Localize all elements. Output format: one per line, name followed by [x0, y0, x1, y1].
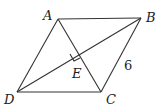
side-da	[17, 19, 58, 92]
label-d: D	[3, 92, 15, 107]
label-c: C	[106, 92, 116, 107]
diagram-svg: A B C D E 6	[0, 0, 163, 107]
side-ab	[58, 18, 141, 19]
rhombus-diagram: A B C D E 6	[0, 0, 163, 107]
label-a: A	[42, 8, 52, 23]
label-e: E	[71, 66, 82, 81]
diagonal-ac	[58, 19, 101, 92]
side-bc	[101, 18, 141, 92]
label-b: B	[145, 10, 156, 25]
label-side-bc-length: 6	[124, 58, 132, 73]
